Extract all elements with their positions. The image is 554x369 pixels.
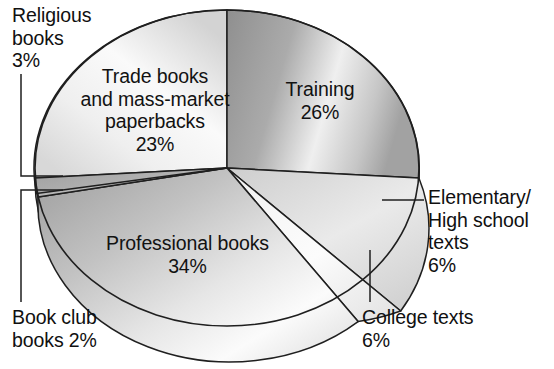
slice-label-book-club-books: Book club books 2% bbox=[12, 306, 97, 351]
pie-chart-figure: Religious books 3% Trade books and mass-… bbox=[0, 0, 554, 369]
slice-label-college-texts: College texts 6% bbox=[362, 306, 473, 351]
slice-label-training: Training 26% bbox=[250, 78, 390, 123]
slice-label-religious-books: Religious books 3% bbox=[12, 4, 91, 72]
slice-label-trade-books: Trade books and mass-market paperbacks 2… bbox=[60, 65, 250, 155]
slice-label-professional-books: Professional books 34% bbox=[80, 232, 295, 277]
slice-label-elementary-high-school-texts: Elementary/ High school texts 6% bbox=[428, 186, 531, 276]
